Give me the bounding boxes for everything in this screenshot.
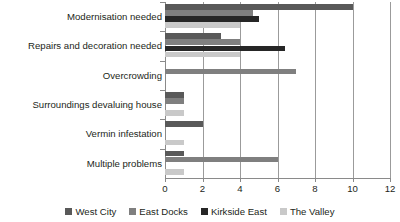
legend-swatch-icon	[65, 208, 72, 215]
bar	[165, 16, 259, 22]
x-tick-label: 8	[312, 183, 317, 194]
category-label: Vermin infestation	[86, 119, 162, 148]
bar	[165, 92, 184, 98]
x-tick-label: 4	[237, 183, 242, 194]
category-row: Multiple problems	[0, 149, 400, 178]
legend-label: West City	[75, 206, 116, 217]
x-tick-mark	[390, 178, 391, 182]
legend-label: East Docks	[139, 206, 188, 217]
bar	[165, 98, 184, 104]
chart-legend: West CityEast DocksKirkside EastThe Vall…	[0, 202, 400, 220]
bar	[165, 52, 240, 58]
category-row: Surroundings devaluing house	[0, 90, 400, 119]
bar-group	[165, 92, 390, 118]
x-tick-mark	[203, 178, 204, 182]
bar	[165, 157, 278, 163]
category-row: Modernisation needed	[0, 2, 400, 31]
bar	[165, 151, 184, 157]
bar	[165, 4, 353, 10]
x-tick-mark	[315, 178, 316, 182]
x-tick-mark	[165, 178, 166, 182]
bar	[165, 39, 240, 45]
category-label: Repairs and decoration needed	[28, 31, 162, 60]
category-label: Multiple problems	[87, 149, 162, 178]
x-tick-label: 6	[275, 183, 280, 194]
x-tick-label: 2	[200, 183, 205, 194]
bar	[165, 10, 253, 16]
category-row: Vermin infestation	[0, 119, 400, 148]
bar-group	[165, 62, 390, 88]
bar	[165, 110, 184, 116]
category-row: Repairs and decoration needed	[0, 31, 400, 60]
legend-swatch-icon	[201, 208, 208, 215]
bar-group	[165, 150, 390, 176]
legend-item: East Docks	[129, 206, 188, 217]
x-axis-ticks: 024681012	[0, 178, 400, 200]
x-tick-mark	[240, 178, 241, 182]
legend-swatch-icon	[129, 208, 136, 215]
legend-label: Kirkside East	[211, 206, 267, 217]
bar-group	[165, 4, 390, 30]
bar	[165, 140, 184, 146]
bar	[165, 33, 221, 39]
bar	[165, 46, 285, 52]
bar	[165, 22, 240, 28]
legend-item: West City	[65, 206, 116, 217]
bar-chart: Modernisation neededRepairs and decorati…	[0, 0, 400, 222]
category-label: Surroundings devaluing house	[32, 90, 162, 119]
bar-group	[165, 121, 390, 147]
x-tick-mark	[278, 178, 279, 182]
legend-label: The Valley	[290, 206, 335, 217]
category-rows: Modernisation neededRepairs and decorati…	[0, 2, 400, 178]
category-row: Overcrowding	[0, 61, 400, 90]
bar	[165, 69, 296, 75]
bar-group	[165, 33, 390, 59]
legend-swatch-icon	[280, 208, 287, 215]
category-label: Overcrowding	[103, 61, 162, 90]
x-tick-label: 0	[162, 183, 167, 194]
bar	[165, 121, 203, 127]
legend-item: Kirkside East	[201, 206, 267, 217]
x-tick-label: 12	[385, 183, 396, 194]
bar	[165, 169, 184, 175]
category-label: Modernisation needed	[67, 2, 162, 31]
x-tick-mark	[353, 178, 354, 182]
x-tick-label: 10	[347, 183, 358, 194]
legend-item: The Valley	[280, 206, 335, 217]
